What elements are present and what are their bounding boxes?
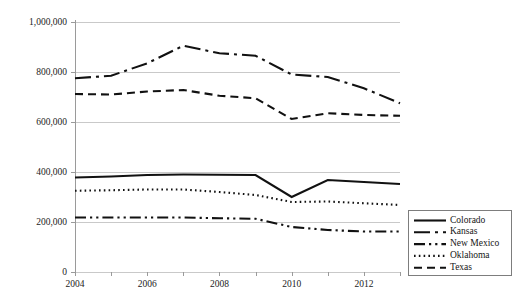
x-axis-tick-labels: 20042006200820102012 xyxy=(66,279,374,289)
y-tick-label: 1,000,000 xyxy=(29,17,67,27)
y-axis-tick-labels: 0200,000400,000600,000800,0001,000,000 xyxy=(29,17,67,277)
series-line-texas xyxy=(75,90,400,119)
y-tick-label: 800,000 xyxy=(36,67,67,77)
y-tick-label: 0 xyxy=(62,267,67,277)
series-line-colorado xyxy=(75,175,400,198)
y-tick-label: 400,000 xyxy=(36,167,67,177)
x-tick-label: 2010 xyxy=(282,279,301,289)
y-tick-label: 600,000 xyxy=(36,117,67,127)
tick-marks xyxy=(71,23,401,277)
legend-label: Kansas xyxy=(450,226,478,236)
legend-label: Colorado xyxy=(450,215,486,225)
x-tick-label: 2004 xyxy=(66,279,85,289)
chart-legend: ColoradoKansasNew MexicoOklahomaTexas xyxy=(409,211,512,276)
legend-label: New Mexico xyxy=(450,238,500,248)
x-tick-label: 2006 xyxy=(138,279,157,289)
legend-label: Texas xyxy=(450,262,472,272)
gridlines xyxy=(75,23,400,273)
legend-label: Oklahoma xyxy=(450,250,490,260)
x-tick-label: 2012 xyxy=(354,279,373,289)
chart-canvas: 0200,000400,000600,000800,0001,000,000 2… xyxy=(0,0,524,300)
line-chart: 0200,000400,000600,000800,0001,000,000 2… xyxy=(0,0,524,300)
series-line-new-mexico xyxy=(75,218,400,232)
series-line-kansas xyxy=(75,46,400,104)
x-tick-label: 2008 xyxy=(210,279,229,289)
series-line-oklahoma xyxy=(75,190,400,206)
y-tick-label: 200,000 xyxy=(36,217,67,227)
data-series-group xyxy=(75,46,400,232)
